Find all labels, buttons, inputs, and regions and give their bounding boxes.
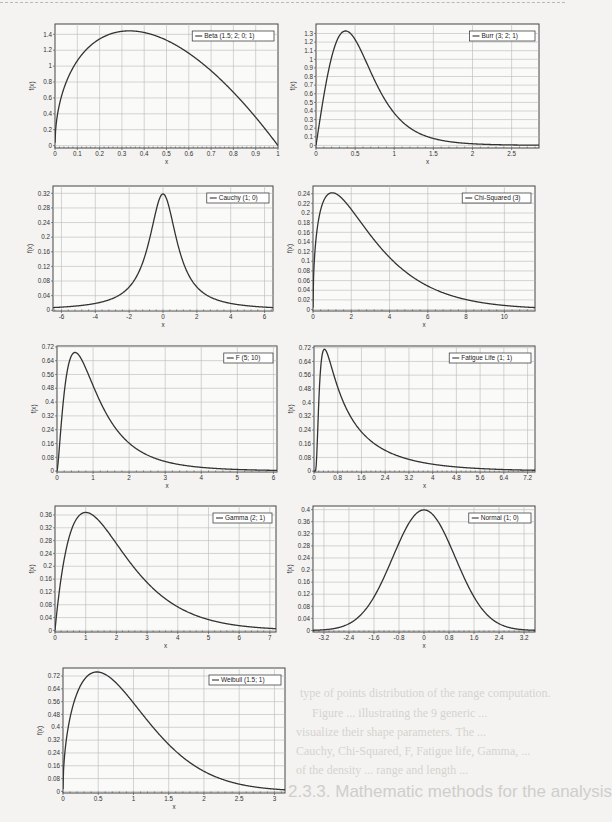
x-tick-label: 0 [311, 313, 315, 320]
y-tick-label: 1.1 [304, 47, 313, 54]
legend: Cauchy (1; 0) [207, 193, 269, 203]
y-tick-label: 0.24 [40, 550, 53, 557]
y-axis-label: f(x) [28, 81, 36, 90]
x-tick-label: 2.5 [235, 795, 244, 802]
y-tick-label: 1 [309, 56, 313, 63]
x-tick-label: 2.5 [507, 150, 516, 157]
x-tick-label: 0 [422, 634, 426, 641]
y-tick-label: 0.24 [48, 749, 61, 756]
y-tick-label: 0.04 [298, 286, 311, 293]
y-tick-label: 0.56 [42, 371, 55, 378]
x-tick-label: -3.2 [319, 634, 330, 641]
x-axis-label: x [172, 803, 176, 810]
y-tick-label: 0 [48, 627, 52, 634]
x-tick-label: 1.6 [470, 634, 479, 641]
x-tick-label: 0.7 [207, 150, 216, 157]
y-tick-label: 0.72 [42, 343, 55, 350]
y-tick-label: 0.56 [48, 698, 61, 705]
plot-area [316, 24, 539, 148]
y-tick-label: 0.4 [301, 506, 310, 513]
x-axis-label: x [426, 158, 430, 165]
x-tick-label: 0 [55, 474, 59, 481]
y-tick-label: 0.72 [48, 672, 61, 679]
y-tick-label: 0.08 [40, 601, 53, 608]
y-tick-label: 0.64 [299, 358, 312, 365]
y-tick-label: 0.32 [40, 524, 53, 531]
x-tick-label: 8 [464, 313, 468, 320]
y-tick-label: 0 [46, 306, 50, 313]
x-tick-label: 0 [61, 795, 65, 802]
x-axis-label: x [423, 482, 427, 489]
y-axis-label: f(x) [36, 726, 44, 735]
y-tick-label: 0.48 [299, 385, 312, 392]
x-tick-label: 10 [501, 313, 509, 320]
y-tick-label: 0.36 [40, 511, 53, 518]
y-tick-label: 0.16 [48, 762, 61, 769]
x-tick-label: 4 [229, 313, 233, 320]
y-tick-label: 0.48 [42, 384, 55, 391]
x-tick-label: 0.5 [94, 795, 103, 802]
y-tick-label: 0 [306, 627, 310, 634]
y-tick-label: 0.12 [298, 590, 311, 597]
chart-cauchy: -6-4-2024600.040.080.120.160.20.240.280.… [27, 184, 277, 331]
x-tick-label: 0 [161, 313, 165, 320]
y-axis-label: f(x) [286, 244, 294, 253]
chart-f: 012345600.080.160.240.320.40.480.560.640… [31, 344, 281, 492]
background-line: visualize their shape parameters. The ..… [296, 725, 486, 740]
x-tick-label: 1.5 [164, 795, 173, 802]
y-tick-label: 0 [50, 467, 54, 474]
plot-area [63, 668, 285, 793]
y-tick-label: 0.48 [48, 711, 61, 718]
x-tick-label: 2 [115, 634, 119, 641]
x-tick-label: 1 [91, 474, 95, 481]
y-tick-label: 0.4 [43, 110, 52, 117]
x-tick-label: 0 [312, 474, 316, 481]
y-tick-label: 0.04 [40, 614, 53, 621]
x-tick-label: -2.4 [344, 634, 355, 641]
legend: Chi-Squared (3) [462, 193, 531, 203]
y-tick-label: 0.64 [42, 357, 55, 364]
legend: Fatigue Life (1; 1) [449, 353, 531, 363]
x-tick-label: 0.6 [184, 150, 193, 157]
x-tick-label: 3 [273, 795, 277, 802]
y-tick-label: 0.08 [298, 603, 311, 610]
x-tick-label: 7.2 [523, 474, 532, 481]
legend-label: Burr (3; 2; 1) [482, 32, 518, 40]
legend-label: Cauchy (1; 0) [219, 194, 258, 202]
y-tick-label: 0 [306, 306, 310, 313]
y-tick-label: 1.3 [304, 30, 313, 37]
y-tick-label: 0.8 [43, 78, 52, 85]
x-tick-label: 6 [237, 634, 241, 641]
x-tick-label: 2 [471, 150, 475, 157]
y-tick-label: 0 [309, 142, 313, 149]
x-tick-label: -1.6 [369, 634, 380, 641]
x-tick-label: 5 [236, 474, 240, 481]
y-tick-label: 0.08 [299, 454, 312, 461]
page-top-divider [0, 2, 565, 3]
y-tick-label: 0.72 [299, 344, 312, 351]
x-tick-label: 1.5 [429, 150, 438, 157]
x-axis-label: x [165, 482, 169, 489]
x-tick-label: 0 [53, 150, 57, 157]
y-tick-label: 0.12 [298, 248, 311, 255]
y-tick-label: 0.16 [42, 440, 55, 447]
y-tick-label: 0.2 [43, 562, 52, 569]
y-tick-label: 0.28 [40, 537, 53, 544]
legend: Weibull (1.5; 1) [209, 675, 281, 685]
x-tick-label: 0.4 [140, 150, 149, 157]
legend-label: Chi-Squared (3) [474, 194, 520, 202]
x-tick-label: 3 [145, 634, 149, 641]
y-tick-label: 0.4 [304, 107, 313, 114]
x-tick-label: 4.8 [452, 474, 461, 481]
x-tick-label: -6 [59, 313, 65, 320]
background-line: type of points distribution of the range… [300, 686, 551, 701]
x-tick-label: 3 [163, 474, 167, 481]
background-line: Cauchy, Chi-Squared, F, Fatigue life, Ga… [296, 744, 530, 759]
y-tick-label: 0.28 [38, 204, 51, 211]
y-tick-label: 0.56 [299, 371, 312, 378]
x-tick-label: 4 [388, 313, 392, 320]
y-tick-label: 0.22 [298, 200, 311, 207]
legend-label: Weibull (1.5; 1) [221, 676, 265, 684]
x-tick-label: -2 [126, 313, 132, 320]
y-tick-label: 0.7 [304, 81, 313, 88]
